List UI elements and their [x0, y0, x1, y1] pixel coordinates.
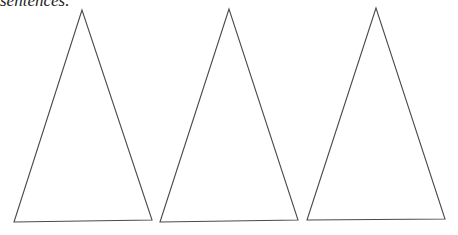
triangle-1: [14, 10, 152, 222]
triangle-3: [307, 8, 445, 220]
triangle-2: [160, 9, 298, 222]
triangle-drawing: [0, 0, 458, 235]
